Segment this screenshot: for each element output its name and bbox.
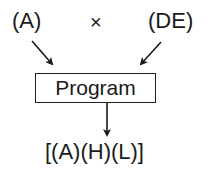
program-box: Program	[35, 73, 156, 103]
program-label: Program	[55, 76, 136, 100]
arrow-a-to-program	[32, 41, 52, 64]
output-label: [(A)(H)(L)]	[45, 141, 144, 163]
arrow-de-to-program	[141, 42, 161, 64]
